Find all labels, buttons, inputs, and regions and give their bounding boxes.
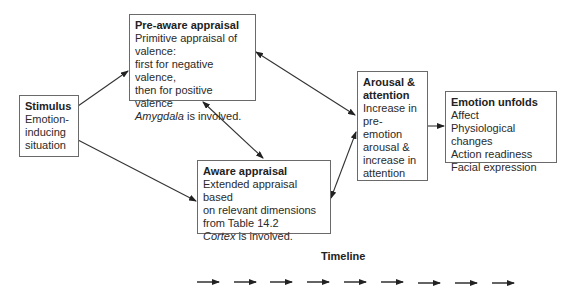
arousal-line: increase in — [363, 154, 422, 167]
emotion-line: Facial expression — [451, 161, 551, 174]
pre-aware-title: Pre-aware appraisal — [135, 19, 250, 32]
pre-aware-note-rest: is involved. — [184, 110, 241, 122]
amygdala-term: Amygdala — [135, 110, 184, 122]
aware-line: Extended appraisal based — [203, 178, 325, 204]
aware-line: from Table 14.2 — [203, 217, 325, 230]
emotion-line: Action readiness — [451, 148, 551, 161]
aware-note-rest: is involved. — [235, 230, 292, 242]
pre-aware-note: Amygdala is involved. — [135, 110, 250, 123]
aware-note: Cortex is involved. — [203, 230, 325, 243]
pre-aware-appraisal-box: Pre-aware appraisal Primitive appraisal … — [129, 14, 256, 101]
stimulus-line: Emotion- — [25, 113, 73, 126]
arousal-line: emotion — [363, 128, 422, 141]
emotion-title: Emotion unfolds — [451, 96, 551, 109]
edge-stimulus-to-pre-aware — [78, 71, 128, 106]
stimulus-line: situation — [25, 139, 73, 152]
emotion-unfolds-box: Emotion unfolds Affect Physiological cha… — [445, 91, 557, 163]
timeline-label: Timeline — [321, 250, 365, 262]
stimulus-line: inducing — [25, 126, 73, 139]
emotion-line: Affect — [451, 109, 551, 122]
arousal-title: Arousal & — [363, 76, 422, 89]
stimulus-title: Stimulus — [25, 100, 73, 113]
pre-aware-line: first for negative valence, — [135, 58, 250, 84]
stimulus-box: Stimulus Emotion- inducing situation — [19, 95, 79, 157]
aware-appraisal-box: Aware appraisal Extended appraisal based… — [197, 160, 331, 234]
cortex-term: Cortex — [203, 230, 235, 242]
arousal-line: arousal & — [363, 141, 422, 154]
aware-title: Aware appraisal — [203, 165, 325, 178]
arousal-title: attention — [363, 89, 422, 102]
pre-aware-line: then for positive valence — [135, 84, 250, 110]
emotion-line: Physiological changes — [451, 122, 551, 148]
pre-aware-line: Primitive appraisal of — [135, 32, 250, 45]
edge-arousal-pre-aware — [256, 52, 355, 115]
arousal-line: Increase in — [363, 102, 422, 115]
edge-arousal-aware — [331, 132, 356, 198]
timeline-arrows — [197, 282, 514, 283]
pre-aware-line: valence: — [135, 45, 250, 58]
arousal-line: attention — [363, 167, 422, 180]
arousal-line: pre- — [363, 115, 422, 128]
aware-line: on relevant dimensions — [203, 204, 325, 217]
edge-stimulus-to-aware — [78, 140, 196, 201]
arousal-attention-box: Arousal & attention Increase in pre- emo… — [357, 71, 428, 181]
